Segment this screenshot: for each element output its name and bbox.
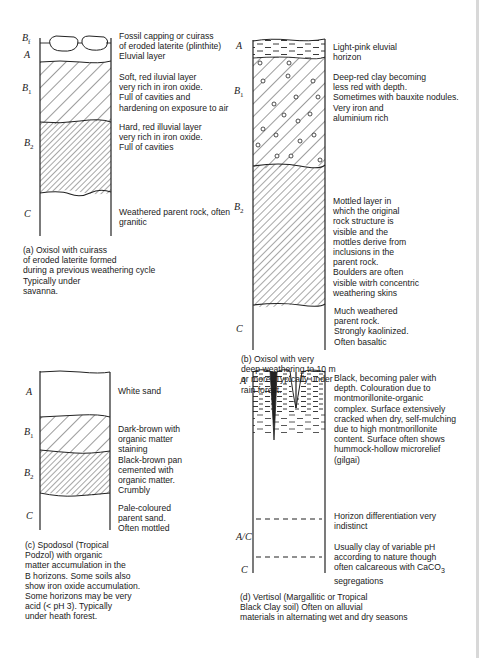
horizon-description: Pale-coloured parent sand. Often mottled (118, 503, 171, 534)
horizon-description: Black, becoming paler with depth. Colour… (334, 373, 456, 465)
horizon-label-a: A (24, 49, 30, 60)
caption-d: (d) Vertisol (Margallitic or Tropical Bl… (240, 592, 408, 623)
horizon-label-a: A (26, 386, 32, 397)
horizon-description: Deep-red clay becoming less red with dep… (333, 72, 459, 123)
horizon-description: Fossil capping or cuirass of eroded late… (119, 31, 221, 62)
horizon-label-ac: A/C (236, 531, 252, 542)
profile-c (40, 371, 110, 530)
horizon-label-b2: B2 (24, 137, 34, 151)
horizon-label-b1: B1 (22, 82, 32, 96)
horizon-label-b2: B2 (24, 467, 34, 481)
horizon-label-b1: B1 (234, 85, 244, 99)
profile-b (253, 39, 325, 350)
caption-c: (c) Spodosol (Tropical Podzol) with orga… (25, 540, 140, 622)
caption-a: (a) Oxisol with cuirass of eroded lateri… (23, 245, 155, 296)
horizon-description: Hard, red illuvial layer very rich in ir… (119, 122, 203, 153)
profile-a (40, 36, 111, 236)
horizon-label-bf: Bf (22, 32, 30, 46)
horizon-label-c: C (24, 208, 31, 219)
horizon-description: Weathered parent rock, often granitic (119, 207, 230, 227)
horizon-label-c: C (26, 510, 33, 521)
horizon-description: White sand (118, 386, 161, 396)
horizon-description: Dark-brown with organic matter staining … (118, 424, 182, 495)
horizon-label-a: A (236, 40, 242, 51)
horizon-label-c: C (241, 564, 248, 575)
horizon-label-b1: B1 (24, 426, 34, 440)
horizon-label-c: C (236, 323, 243, 334)
horizon-description: Horizon differentiation very indistinct (334, 511, 436, 531)
profile-d (253, 370, 325, 573)
horizon-label-b2: B2 (234, 201, 244, 215)
horizon-description: Light-pink eluvial horizon (333, 42, 397, 62)
caption-b: (b) Oxisol with very deep weathering to … (241, 354, 336, 395)
horizon-description: Soft, red iluvial layer very rich in iro… (119, 72, 228, 113)
horizon-description: Mottled layer in which the original rock… (333, 196, 419, 298)
horizon-description: Usually clay of variable pH according to… (334, 542, 445, 587)
horizon-description: Much weathered parent rock. Strongly kao… (334, 306, 409, 347)
horizon-label-a: A (240, 375, 246, 386)
